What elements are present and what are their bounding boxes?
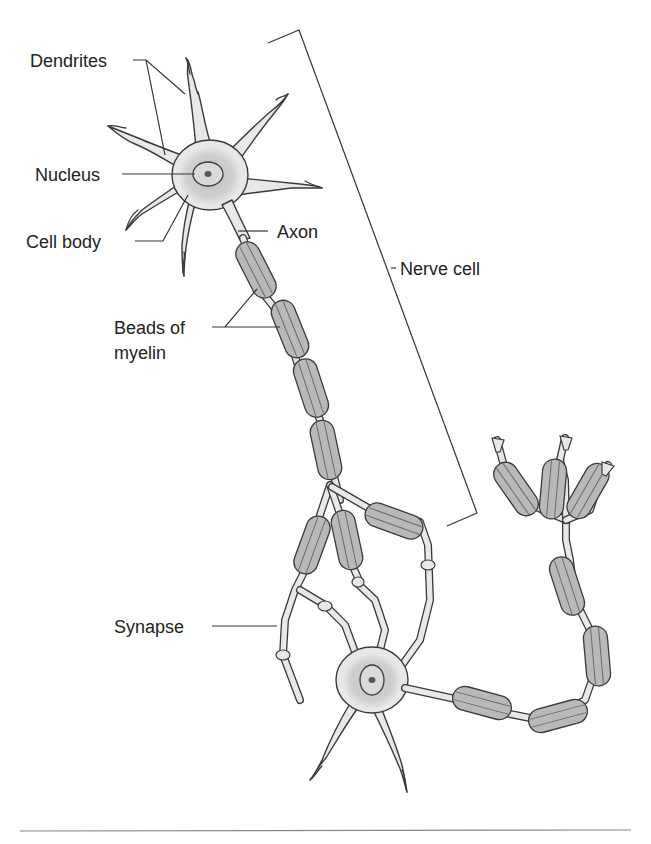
myelin-bead [308, 418, 344, 482]
myelin-bead [268, 297, 313, 362]
myelin-bead [538, 458, 567, 520]
myelin-bead [582, 625, 611, 687]
axon-hillock-1 [222, 200, 250, 240]
myelin-bead [362, 499, 427, 542]
label-dendrites: Dendrites [30, 51, 107, 71]
nucleolus-2 [369, 677, 376, 683]
label-beads-line2: myelin [114, 343, 166, 363]
neuron-diagram: Dendrites Nucleus Cell body Axon Nerve c… [0, 0, 651, 844]
myelin-bead [232, 238, 281, 302]
label-axon: Axon [277, 222, 318, 242]
nerve-cell-2 [310, 647, 408, 792]
myelin-bead [489, 458, 543, 521]
label-nucleus: Nucleus [35, 165, 100, 185]
label-synapse: Synapse [114, 617, 184, 637]
myelin-bead [290, 513, 333, 578]
label-cell-body: Cell body [26, 232, 101, 252]
myelin-bead [450, 684, 514, 723]
nucleolus-1 [205, 171, 212, 177]
nerve-cell-1 [108, 58, 322, 276]
label-beads-line1: Beads of [114, 318, 186, 338]
myelinated-axon-2 [405, 436, 614, 735]
bottom-rule [20, 830, 631, 831]
label-nerve-cell: Nerve cell [400, 259, 480, 279]
myelin-bead [526, 697, 590, 736]
myelin-bead [290, 356, 331, 420]
myelinated-axon [232, 238, 344, 500]
myelin-bead [546, 554, 587, 618]
myelin-bead [329, 508, 365, 572]
